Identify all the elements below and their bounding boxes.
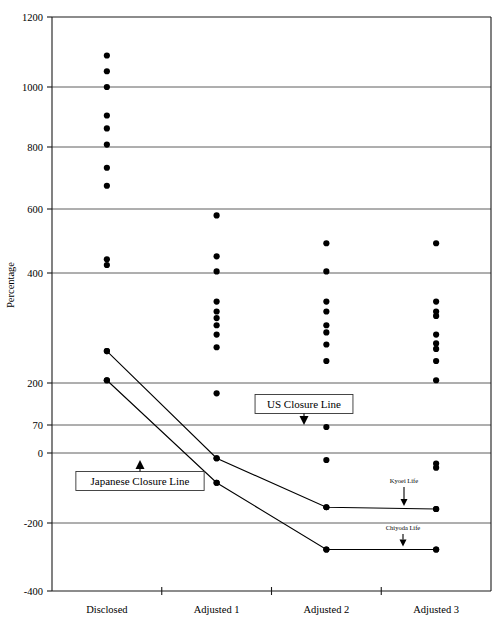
data-point <box>433 358 439 364</box>
series-data-point <box>433 546 439 552</box>
data-point <box>214 212 220 218</box>
data-point <box>323 341 329 347</box>
x-category-label: Adjusted 2 <box>303 604 349 615</box>
data-point <box>214 344 220 350</box>
data-point <box>104 165 110 171</box>
y-axis-title: Percentage <box>5 262 16 308</box>
annotations: US Closure LineJapanese Closure LineKyoe… <box>76 395 420 547</box>
y-tick-label: -400 <box>24 586 43 597</box>
series-data-point <box>214 480 220 486</box>
y-tick-label: 1000 <box>22 82 43 93</box>
data-point <box>104 183 110 189</box>
data-point <box>433 346 439 352</box>
series-annotation-label: Kyoei Life <box>390 477 418 484</box>
data-point <box>433 299 439 305</box>
y-tick-label: 1200 <box>22 12 43 23</box>
data-point <box>433 313 439 319</box>
x-category-label: Disclosed <box>86 604 128 615</box>
series-annotation-arrow-head <box>400 540 407 547</box>
data-point <box>214 299 220 305</box>
callout-arrow-head <box>300 416 309 425</box>
y-tick-label: 800 <box>27 142 43 153</box>
data-point <box>104 256 110 262</box>
series-data-point <box>104 377 110 383</box>
data-point <box>323 240 329 246</box>
series-data-point <box>323 504 329 510</box>
data-point <box>323 457 329 463</box>
data-point <box>433 240 439 246</box>
data-point <box>104 68 110 74</box>
data-point <box>433 465 439 471</box>
callout-label: US Closure Line <box>267 398 341 410</box>
data-point <box>323 299 329 305</box>
data-point <box>323 322 329 328</box>
callout-label: Japanese Closure Line <box>91 475 190 487</box>
y-tick-label: -200 <box>24 518 43 529</box>
data-point <box>323 308 329 314</box>
data-point <box>214 268 220 274</box>
chart-canvas: 12001000800600400200700-200-400Disclosed… <box>0 0 493 631</box>
y-tick-label: 0 <box>38 448 43 459</box>
data-point <box>323 424 329 430</box>
data-point <box>104 125 110 131</box>
series-lines <box>107 351 436 549</box>
series-annotation-arrow-head <box>401 499 408 506</box>
series-data-point <box>214 455 220 461</box>
data-point <box>323 358 329 364</box>
y-tick-label: 400 <box>27 268 43 279</box>
series-annotation-label: Chiyoda Life <box>386 524 421 531</box>
x-category-label: Adjusted 1 <box>194 604 240 615</box>
data-point <box>433 340 439 346</box>
y-tick-label: 200 <box>27 378 43 389</box>
data-point <box>104 262 110 268</box>
data-point <box>214 253 220 259</box>
data-point <box>214 322 220 328</box>
data-point <box>214 315 220 321</box>
data-point <box>433 332 439 338</box>
data-point <box>214 308 220 314</box>
data-point <box>433 377 439 383</box>
x-category-label: Adjusted 3 <box>413 604 459 615</box>
data-point <box>104 142 110 148</box>
data-point <box>323 268 329 274</box>
series-data-point <box>433 506 439 512</box>
y-tick-label: 600 <box>27 204 43 215</box>
series-data-point <box>323 546 329 552</box>
series-data-point <box>104 348 110 354</box>
y-tick-label: 70 <box>33 420 44 431</box>
callout-arrow-head <box>136 460 145 469</box>
data-point <box>104 84 110 90</box>
scatter-chart: 12001000800600400200700-200-400Disclosed… <box>0 0 493 631</box>
data-point <box>323 329 329 335</box>
data-point <box>104 52 110 58</box>
data-point <box>214 390 220 396</box>
data-point <box>104 112 110 118</box>
data-point <box>214 332 220 338</box>
